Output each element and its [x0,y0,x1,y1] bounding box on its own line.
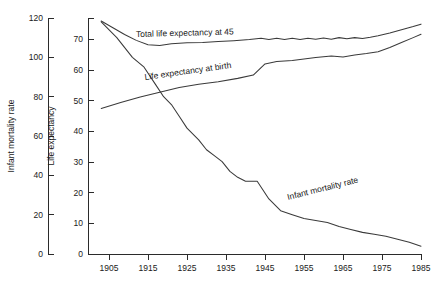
x-axis-tick-label: 1965 [334,263,353,273]
life-expectancy-tick-label: 70 [74,34,84,44]
x-axis-tick-label: 1955 [295,263,314,273]
chart-container: 020406080100120 Infant mortality rate 01… [0,0,434,283]
life-expectancy-tick-label: 20 [74,188,84,198]
x-axis-tick-label: 1915 [139,263,158,273]
x-axis-tick-label: 1905 [100,263,119,273]
x-axis-tick-label: 1925 [178,263,197,273]
series-annotations: Total life expectancy at 45Life expectan… [136,26,360,202]
infant-mortality-tick-label: 0 [38,249,43,259]
infant-mortality-tick-labels: 020406080100120 [29,13,43,259]
life-expectancy-tick-label: 40 [74,126,84,136]
series-line-infant-mortality-rate [101,22,421,246]
infant-mortality-rate-label: Infant mortality rate [286,175,359,202]
life-expectancy-tick-label: 30 [74,157,84,167]
life-expectancy-tick-label: 60 [74,65,84,75]
infant-mortality-tick-label: 60 [34,131,44,141]
x-axis: 190519151925193519451955196519751985 [88,254,431,273]
infant-mortality-tick-label: 120 [29,13,43,23]
x-axis-tick-labels: 190519151925193519451955196519751985 [100,263,431,273]
life-expectancy-tick-labels: 010203040506070 [74,34,84,259]
infant-mortality-tick-label: 100 [29,52,43,62]
life-expectancy-at-birth-label: Life expectancy at birth [144,60,232,82]
life-expectancy-axis-title: Life expectancy [46,106,56,166]
x-axis-tick-label: 1945 [256,263,275,273]
infant-mortality-tick-label: 80 [34,92,44,102]
x-axis-ticks [109,254,421,260]
series-group [101,21,421,246]
total-life-expectancy-at-45-label: Total life expectancy at 45 [136,26,234,39]
infant-mortality-tick-label: 20 [34,210,44,220]
infant-mortality-axis-title: Infant mortality rate [6,99,16,172]
infant-mortality-tick-label: 40 [34,170,44,180]
x-axis-tick-label: 1935 [217,263,236,273]
life-expectancy-axis-line [88,18,94,254]
life-expectancy-axis: 010203040506070 Life expectancy [46,18,94,259]
life-expectancy-tick-label: 0 [78,249,83,259]
life-expectancy-tick-label: 10 [74,218,84,228]
life-expectancy-tick-label: 50 [74,96,84,106]
x-axis-tick-label: 1985 [412,263,431,273]
chart-svg: 020406080100120 Infant mortality rate 01… [0,0,434,283]
x-axis-tick-label: 1975 [373,263,392,273]
life-expectancy-ticks [88,39,94,254]
